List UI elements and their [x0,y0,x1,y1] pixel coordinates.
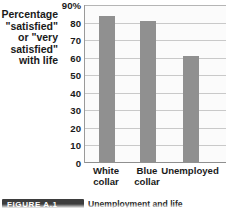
y-axis-label-line-1: Percentage [0,9,58,21]
gridline-90 [85,5,226,6]
y-tick-label-60: 60 [54,52,81,63]
bar-blue-collar [140,21,156,163]
caption-crop-fade [0,204,226,209]
y-tick-label-80: 80 [54,17,81,28]
y-axis-tick-labels: 0102030405060708090% [54,5,81,163]
plot-area [84,5,226,163]
figure-caption: FIGURE A.1 Unemployment and life [0,198,226,209]
y-tick-label-70: 70 [54,35,81,46]
figure-bar-chart: Percentage "satisfied" or "very satisfie… [0,0,226,209]
y-tick-label-20: 20 [54,122,81,133]
y-tick-label-30: 30 [54,105,81,116]
category-label-line: collar [112,177,182,188]
category-label-line: Unemployed [155,166,225,177]
y-tick-label-40: 40 [54,87,81,98]
x-axis-category-labels: WhitecollarBluecollarUnemployed [84,166,226,192]
category-label-unemployed: Unemployed [155,166,225,177]
y-tick-label-90: 90% [54,0,81,11]
bar-white-collar [99,16,115,163]
y-axis-label-line-5: with life [0,55,58,67]
y-tick-label-10: 10 [54,140,81,151]
y-axis-label: Percentage "satisfied" or "very satisfie… [0,9,58,67]
bar-unemployed [183,56,199,163]
y-tick-label-50: 50 [54,70,81,81]
